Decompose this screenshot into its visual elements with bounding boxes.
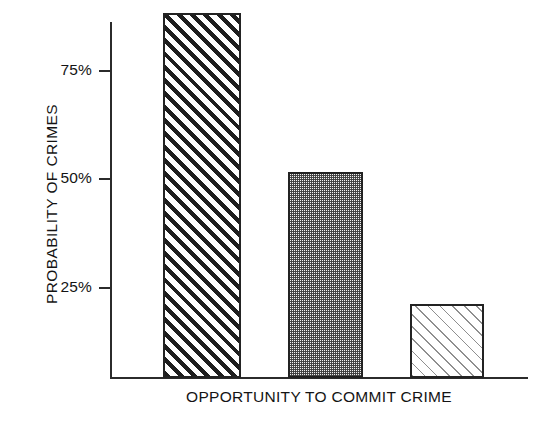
y-tick-label-25: 25% [32, 278, 92, 296]
y-tick-label-75-wrap: 75% [30, 61, 92, 79]
y-tick-25 [99, 287, 111, 289]
y-tick-label-25-wrap: 25% [30, 278, 92, 296]
bar-chart: PROBABILITY OF CRIMES 75% 50% 25% OPPORT… [0, 0, 536, 429]
y-tick-75 [99, 70, 111, 72]
y-tick-label-50-wrap: 50% [30, 169, 92, 187]
y-tick-50 [99, 178, 111, 180]
bar-one [163, 13, 241, 378]
y-tick-label-75: 75% [32, 61, 92, 79]
bar-three [410, 304, 484, 378]
bar-two [288, 172, 363, 378]
x-axis-title: OPPORTUNITY TO COMMIT CRIME [110, 388, 528, 406]
y-axis-title: PROBABILITY OF CRIMES [43, 54, 61, 354]
y-tick-label-50: 50% [32, 169, 92, 187]
y-axis-line [110, 22, 112, 379]
